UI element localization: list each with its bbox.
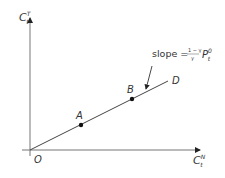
point-a: [79, 123, 83, 127]
diagram-canvas: CTt CNt O D A B slope = 1 − γ γ P0t: [0, 0, 225, 178]
slope-pointer: [146, 66, 152, 89]
x-axis-label: CNt: [193, 153, 206, 168]
line-label-d: D: [172, 75, 180, 86]
slope-denominator: γ: [191, 55, 195, 62]
point-a-label: A: [75, 110, 83, 121]
slope-numerator: 1 − γ: [188, 47, 202, 54]
origin-label: O: [34, 154, 42, 165]
ray-od: [30, 81, 168, 150]
point-b-label: B: [127, 84, 134, 95]
slope-price-var: P0t: [202, 47, 212, 62]
slope-prefix: slope =: [152, 48, 188, 59]
point-b: [130, 97, 134, 101]
